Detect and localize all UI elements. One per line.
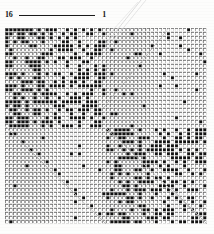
scale-left-label: 16 (5, 10, 13, 20)
figure-container: 16 1 (0, 0, 214, 234)
scale-rule-line (19, 15, 95, 16)
scale-right-label: 1 (102, 10, 106, 20)
scale-bar: 16 1 (4, 10, 108, 24)
matrix-canvas (5, 28, 207, 224)
matrix-grid (5, 28, 207, 224)
